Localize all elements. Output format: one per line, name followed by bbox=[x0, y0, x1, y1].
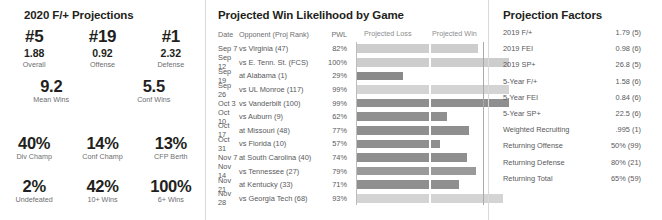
factor-value: 65% (59) bbox=[593, 174, 653, 183]
metric-label: CFP Berth bbox=[137, 152, 205, 162]
wins-metrics-row: 9.2 Mean Wins 5.5 Conf Wins bbox=[0, 78, 205, 105]
metric-value: 13% bbox=[137, 135, 205, 152]
cell-bar bbox=[356, 110, 489, 124]
metric-label: 10+ Wins bbox=[68, 195, 136, 205]
factor-row: Returning Offense50% (99) bbox=[489, 141, 662, 157]
table-row: Sep 26vs UL Monroe (117)99% bbox=[206, 83, 489, 97]
cell-date: Oct 3 bbox=[206, 99, 239, 108]
rank-metrics-row: #5 1.88 Overall #19 0.92 Offense #1 2.32… bbox=[0, 28, 205, 70]
bar-projected-win bbox=[431, 180, 459, 189]
metric-label: Undefeated bbox=[0, 195, 68, 205]
cell-pwl: 100% bbox=[322, 58, 347, 67]
cell-opponent: vs Vanderbilt (100) bbox=[239, 99, 322, 108]
table-row: Oct 17at Missouri (48)77% bbox=[206, 124, 489, 138]
metric-value: 0.92 bbox=[68, 46, 136, 60]
cell-bar bbox=[356, 137, 489, 151]
right-panel-title: Projection Factors bbox=[503, 9, 602, 21]
bar-projected-loss bbox=[357, 140, 429, 149]
metric-offense: #19 0.92 Offense bbox=[68, 28, 136, 70]
metric-undefeated: 2% Undefeated bbox=[0, 178, 68, 205]
bar-axis-right bbox=[483, 96, 484, 110]
metric-rank: #19 bbox=[68, 28, 136, 46]
cell-pwl: 71% bbox=[322, 180, 347, 189]
metric-label: Overall bbox=[0, 60, 68, 70]
cell-bar bbox=[356, 178, 489, 192]
metric-conf-wins: 5.5 Conf Wins bbox=[103, 78, 206, 105]
metric-six-plus-wins: 100% 6+ Wins bbox=[137, 178, 205, 205]
table-row: Nov 28vs Georgia Tech (68)93% bbox=[206, 192, 489, 206]
cell-pwl: 57% bbox=[322, 139, 347, 148]
cell-opponent: at Kentucky (33) bbox=[239, 180, 322, 189]
factor-value: 1.58 (6) bbox=[593, 77, 653, 86]
bar-projected-loss bbox=[357, 180, 429, 189]
bar-projected-win bbox=[431, 44, 478, 53]
table-row: Sep 19at Alabama (1)29% bbox=[206, 69, 489, 83]
cell-bar bbox=[356, 69, 489, 83]
factor-value: 0.98 (6) bbox=[593, 44, 653, 53]
metric-label: Mean Wins bbox=[0, 95, 103, 105]
table-row: Oct 10vs Auburn (9)62% bbox=[206, 110, 489, 124]
factor-value: 50% (99) bbox=[593, 141, 653, 150]
bar-projected-win bbox=[431, 153, 467, 162]
factor-label: 5-Year F/+ bbox=[489, 77, 593, 86]
cell-opponent: vs Auburn (9) bbox=[239, 112, 322, 121]
factor-row: 2019 FEI0.98 (6) bbox=[489, 44, 662, 60]
metric-value: 5.5 bbox=[103, 78, 206, 95]
bar-projected-loss bbox=[357, 85, 429, 94]
bar-axis-right bbox=[483, 178, 484, 192]
factor-value: 22.5 (6) bbox=[593, 109, 653, 118]
table-row: Oct 31vs Florida (10)57% bbox=[206, 137, 489, 151]
win-total-odds-row: 2% Undefeated 42% 10+ Wins 100% 6+ Wins bbox=[0, 178, 205, 205]
bar-projected-win bbox=[431, 126, 469, 135]
bar-projected-loss bbox=[357, 194, 429, 203]
table-row: Nov 21at Kentucky (33)71% bbox=[206, 178, 489, 192]
cell-opponent: vs Virginia (47) bbox=[239, 44, 322, 53]
bar-projected-loss bbox=[357, 99, 429, 108]
metric-defense: #1 2.32 Defense bbox=[137, 28, 205, 70]
table-header-row: Date Opponent (Proj Rank) PWL Projected … bbox=[206, 26, 489, 42]
table-row: Nov 14vs Tennessee (27)79% bbox=[206, 164, 489, 178]
column-header-date: Date bbox=[206, 30, 239, 39]
bar-axis-right bbox=[483, 83, 484, 97]
factor-label: Weighted Recruiting bbox=[489, 125, 593, 134]
bar-projected-loss bbox=[357, 126, 429, 135]
metric-value: 2% bbox=[0, 178, 68, 195]
cell-bar bbox=[356, 56, 489, 70]
cell-date: Sep 7 bbox=[206, 44, 239, 53]
championship-odds-row: 40% Div Champ 14% Conf Champ 13% CFP Ber… bbox=[0, 135, 205, 162]
bar-axis-right bbox=[483, 137, 484, 151]
metric-value: 14% bbox=[68, 135, 136, 152]
cell-bar bbox=[356, 151, 489, 165]
metric-value: 42% bbox=[68, 178, 136, 195]
left-panel-title: 2020 F/+ Projections bbox=[24, 9, 134, 21]
table-row: Sep 12vs E. Tenn. St. (FCS)100% bbox=[206, 56, 489, 70]
factor-value: 26.8 (5) bbox=[593, 60, 653, 69]
cell-bar bbox=[356, 96, 489, 110]
factor-value: 80% (21) bbox=[593, 158, 653, 167]
bar-projected-loss bbox=[357, 167, 429, 176]
cell-opponent: at Missouri (48) bbox=[239, 126, 322, 135]
metric-label: Defense bbox=[137, 60, 205, 70]
cell-pwl: 82% bbox=[322, 44, 347, 53]
factor-row: 5-Year F/+1.58 (6) bbox=[489, 77, 662, 93]
factor-value: 1.79 (5) bbox=[593, 28, 653, 37]
bar-projected-loss bbox=[357, 58, 429, 67]
cell-bar bbox=[356, 42, 489, 56]
team-projections-panel: 2020 F/+ Projections #5 1.88 Overall #19… bbox=[0, 0, 205, 220]
win-likelihood-panel: Projected Win Likelihood by Game Date Op… bbox=[205, 0, 488, 220]
metric-mean-wins: 9.2 Mean Wins bbox=[0, 78, 103, 105]
factor-row: 5-Year SP+22.5 (6) bbox=[489, 109, 662, 125]
bar-axis-right bbox=[483, 56, 484, 70]
factor-value: 0.84 (6) bbox=[593, 93, 653, 102]
cell-pwl: 29% bbox=[322, 71, 347, 80]
cell-bar bbox=[356, 83, 489, 97]
bar-projected-loss bbox=[357, 112, 429, 121]
factor-label: Returning Total bbox=[489, 174, 593, 183]
metric-rank: #5 bbox=[0, 28, 68, 46]
cell-pwl: 99% bbox=[322, 85, 347, 94]
factor-label: 2019 SP+ bbox=[489, 60, 593, 69]
table-row: Oct 3vs Vanderbilt (100)99% bbox=[206, 96, 489, 110]
factor-label: 2019 F/+ bbox=[489, 28, 593, 37]
factor-row: 2019 SP+26.8 (5) bbox=[489, 60, 662, 76]
factor-label: 5-Year FEI bbox=[489, 93, 593, 102]
